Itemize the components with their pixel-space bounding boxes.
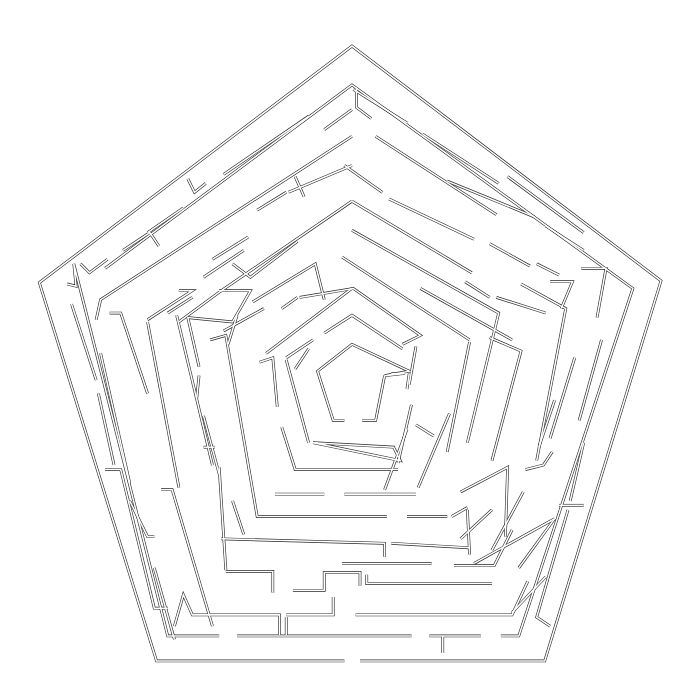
maze-corridor-highlight (39, 46, 661, 661)
pentagon-maze[interactable] (0, 0, 695, 690)
